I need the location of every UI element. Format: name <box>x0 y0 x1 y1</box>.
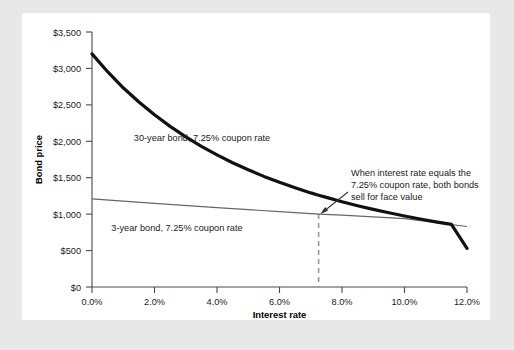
y-axis-tick-labels: $0 $500 $1,000 $1,500 $2,000 $2,500 $3,0… <box>53 28 81 293</box>
bond-price-chart: $0 $500 $1,000 $1,500 $2,000 $2,500 $3,0… <box>22 13 490 320</box>
callout-line-3: sell for face value <box>351 192 423 202</box>
series-label-30-year-bond: 30-year bond, 7.25% coupon rate <box>134 133 270 143</box>
axes <box>92 32 467 287</box>
y-tick-label-3000: $3,000 <box>53 64 81 74</box>
face-value-callout: When interest rate equals the 7.25% coup… <box>320 168 479 214</box>
x-tick-label-2: 2.0% <box>144 297 165 307</box>
series-label-3-year-bond: 3-year bond, 7.25% coupon rate <box>111 223 242 233</box>
x-tick-label-4: 4.0% <box>207 297 228 307</box>
x-tick-label-6: 6.0% <box>269 297 290 307</box>
x-tick-label-8: 8.0% <box>332 297 353 307</box>
y-axis-title: Bond price <box>33 135 44 184</box>
y-tick-label-2500: $2,500 <box>53 100 81 110</box>
y-axis-ticks <box>86 32 92 287</box>
figure-card: $0 $500 $1,000 $1,500 $2,000 $2,500 $3,0… <box>22 13 490 320</box>
callout-line-2: 7.25% coupon rate, both bonds <box>351 180 479 190</box>
x-tick-label-0: 0.0% <box>82 297 103 307</box>
y-tick-label-1500: $1,500 <box>53 173 81 183</box>
y-tick-label-3500: $3,500 <box>53 28 81 38</box>
y-tick-label-500: $500 <box>61 246 81 256</box>
y-tick-label-1000: $1,000 <box>53 210 81 220</box>
x-tick-label-12: 12.0% <box>454 297 480 307</box>
x-axis-ticks <box>92 287 467 293</box>
x-axis-title: Interest rate <box>253 309 307 320</box>
y-tick-label-0: $0 <box>71 283 81 293</box>
y-tick-label-2000: $2,000 <box>53 137 81 147</box>
x-axis-tick-labels: 0.0% 2.0% 4.0% 6.0% 8.0% 10.0% 12.0% <box>82 297 481 307</box>
callout-line-1: When interest rate equals the <box>351 168 471 178</box>
x-tick-label-10: 10.0% <box>391 297 417 307</box>
